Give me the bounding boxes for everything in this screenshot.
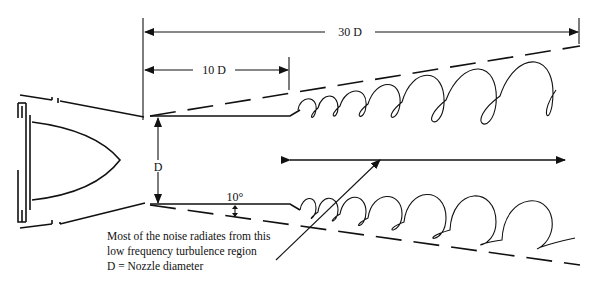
caption-line-1: Most of the noise radiates from this — [107, 230, 271, 242]
caption-line-2: low frequency turbulence region — [107, 245, 257, 258]
dimension-10d: 10 D — [145, 57, 289, 90]
caption: Most of the noise radiates from this low… — [107, 230, 271, 272]
label-30d: 30 D — [338, 25, 362, 39]
pointer-line — [276, 160, 380, 260]
jet-boundary-top — [150, 46, 580, 116]
jet-noise-diagram: 30 D 10 D D 10° Most of the noise radiat… — [0, 0, 599, 286]
vortex-chain-bottom — [300, 194, 575, 248]
label-d: D — [154, 160, 163, 174]
engine-nozzle — [18, 95, 145, 228]
angle-marker: 10° — [227, 190, 244, 217]
caption-line-3: D = Nozzle diameter — [107, 260, 203, 272]
dimension-nozzle-d: D — [154, 118, 163, 203]
label-10d: 10 D — [202, 63, 226, 77]
label-angle: 10° — [227, 190, 244, 204]
core-edge-bottom — [150, 204, 300, 210]
